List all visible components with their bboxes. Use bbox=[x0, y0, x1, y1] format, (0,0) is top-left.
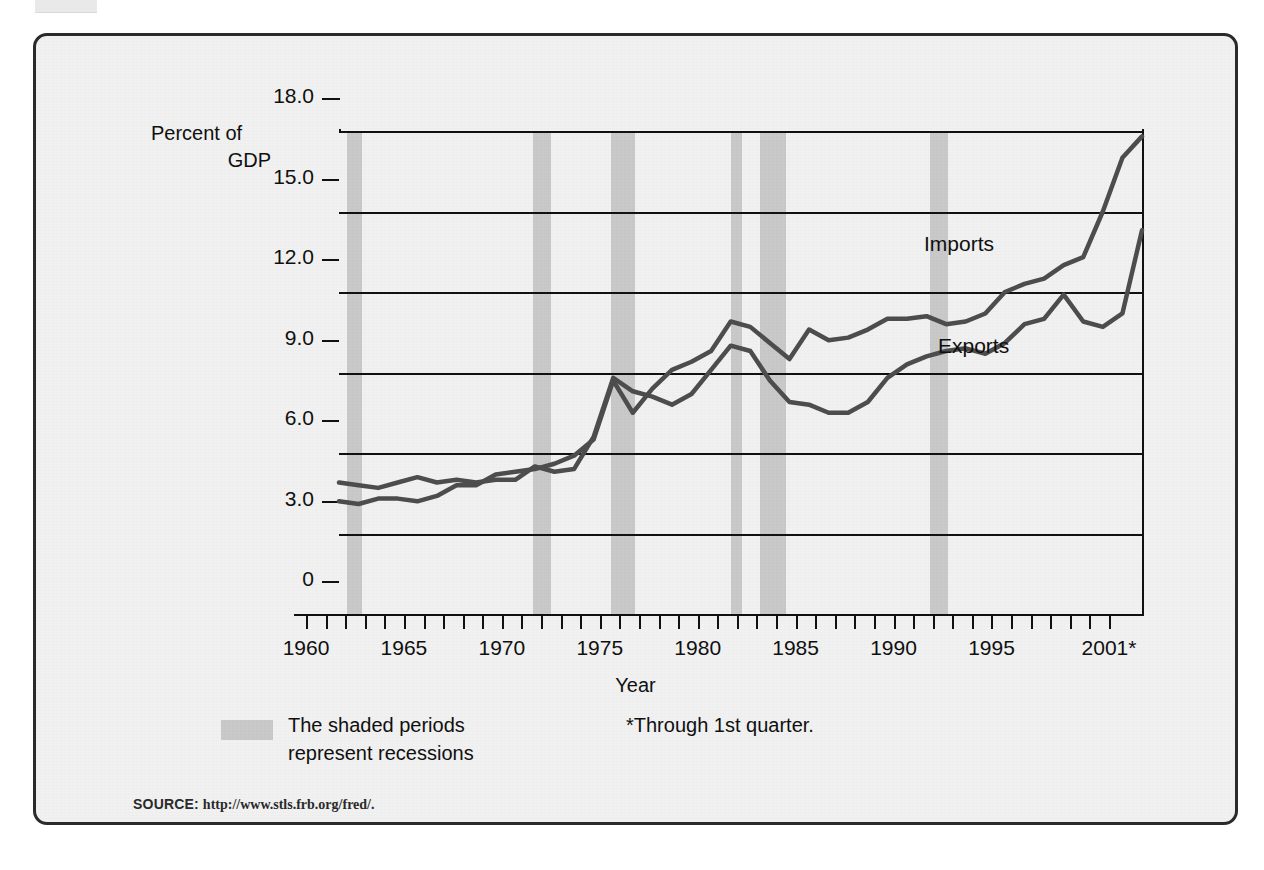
x-tick-mark-1989 bbox=[874, 614, 876, 629]
x-tick-label-1970: 1970 bbox=[478, 636, 525, 660]
x-tick-mark-1978 bbox=[659, 614, 661, 629]
x-tick-mark-1997 bbox=[1031, 614, 1033, 629]
y-axis-title-line1: Percent of bbox=[151, 122, 242, 144]
y-tick-mark-15.0 bbox=[322, 179, 340, 181]
plot-right-border bbox=[1142, 129, 1144, 616]
x-tick-mark-1969 bbox=[482, 614, 484, 629]
x-tick-mark-1963 bbox=[365, 614, 367, 629]
x-tick-mark-1962 bbox=[345, 614, 347, 629]
x-tick-mark-1965 bbox=[404, 614, 406, 629]
x-tick-label-1990: 1990 bbox=[870, 636, 917, 660]
x-tick-mark-1960 bbox=[306, 614, 308, 629]
x-tick-mark-1970 bbox=[502, 614, 504, 629]
y-tick-mark-12.0 bbox=[322, 259, 340, 261]
x-tick-mark-1973 bbox=[561, 614, 563, 629]
series-label-exports: Exports bbox=[938, 334, 1009, 358]
x-tick-mark-1990 bbox=[894, 614, 896, 629]
y-tick-text: 3.0 bbox=[285, 487, 314, 511]
y-tick-mark-6.0 bbox=[322, 420, 340, 422]
x-tick-mark-1988 bbox=[854, 614, 856, 629]
y-tick-text: 18.0 bbox=[273, 84, 314, 108]
y-axis-title-line2: GDP bbox=[151, 147, 271, 174]
legend-recession-text: The shaded periods represent recessions bbox=[288, 711, 474, 767]
line-exports bbox=[339, 230, 1142, 488]
series-label-imports: Imports bbox=[924, 232, 994, 256]
y-tick-mark-18.0 bbox=[322, 98, 340, 100]
x-tick-mark-1964 bbox=[384, 614, 386, 629]
y-tick-text: 6.0 bbox=[285, 406, 314, 430]
legend-recession-swatch bbox=[221, 720, 273, 740]
x-tick-mark-1966 bbox=[424, 614, 426, 629]
x-tick-label-1985: 1985 bbox=[772, 636, 819, 660]
x-tick-mark-1986 bbox=[815, 614, 817, 629]
source-label: SOURCE: bbox=[133, 796, 199, 812]
figure-root: Percent of GDP 03.06.09.012.015.018.0 19… bbox=[0, 0, 1264, 870]
x-tick-mark-1983 bbox=[756, 614, 758, 629]
series-lines bbox=[339, 131, 1142, 614]
x-tick-mark-1976 bbox=[619, 614, 621, 629]
x-tick-label-1960: 1960 bbox=[283, 636, 330, 660]
x-tick-label-1975: 1975 bbox=[576, 636, 623, 660]
line-imports bbox=[339, 136, 1142, 504]
x-tick-mark-1979 bbox=[678, 614, 680, 629]
y-tick-mark-9.0 bbox=[322, 340, 340, 342]
x-tick-mark-1982 bbox=[737, 614, 739, 629]
legend-line-1: The shaded periods bbox=[288, 711, 474, 739]
x-tick-mark-1994 bbox=[972, 614, 974, 629]
x-tick-mark-1980 bbox=[698, 614, 700, 629]
x-tick-mark-1971 bbox=[521, 614, 523, 629]
x-tick-mark-1977 bbox=[639, 614, 641, 629]
y-axis-title: Percent of GDP bbox=[151, 120, 271, 174]
y-tick-text: 12.0 bbox=[273, 245, 314, 269]
x-tick-label-1980: 1980 bbox=[674, 636, 721, 660]
x-tick-mark-1987 bbox=[835, 614, 837, 629]
y-tick-text: 15.0 bbox=[273, 165, 314, 189]
x-tick-mark-2000 bbox=[1089, 614, 1091, 629]
x-tick-mark-1985 bbox=[796, 614, 798, 629]
x-tick-label-1965: 1965 bbox=[381, 636, 428, 660]
figure-frame: Percent of GDP 03.06.09.012.015.018.0 19… bbox=[33, 33, 1238, 825]
x-tick-mark-1972 bbox=[541, 614, 543, 629]
x-tick-mark-1993 bbox=[952, 614, 954, 629]
x-tick-mark-1984 bbox=[776, 614, 778, 629]
x-tick-mark-1991 bbox=[913, 614, 915, 629]
x-tick-mark-1998 bbox=[1050, 614, 1052, 629]
x-tick-mark-1992 bbox=[933, 614, 935, 629]
x-tick-mark-1999 bbox=[1070, 614, 1072, 629]
y-tick-text: 0 bbox=[302, 567, 314, 591]
x-tick-mark-1974 bbox=[580, 614, 582, 629]
x-tick-mark-1995 bbox=[991, 614, 993, 629]
x-tick-mark-1968 bbox=[463, 614, 465, 629]
footnote-through-quarter: *Through 1st quarter. bbox=[626, 714, 814, 737]
x-tick-label-1995: 1995 bbox=[968, 636, 1015, 660]
legend-line-2: represent recessions bbox=[288, 739, 474, 767]
source-url: http://www.stls.frb.org/fred/. bbox=[203, 797, 375, 812]
x-tick-mark-1975 bbox=[600, 614, 602, 629]
page-artifact bbox=[35, 0, 97, 13]
x-tick-mark-1961 bbox=[326, 614, 328, 629]
y-tick-mark-0 bbox=[322, 581, 340, 583]
y-tick-text: 9.0 bbox=[285, 326, 314, 350]
x-axis-title: Year bbox=[36, 674, 1235, 697]
x-tick-mark-1996 bbox=[1011, 614, 1013, 629]
source-note: SOURCE: http://www.stls.frb.org/fred/. bbox=[133, 796, 374, 813]
x-tick-mark-1981 bbox=[717, 614, 719, 629]
x-tick-mark-1967 bbox=[443, 614, 445, 629]
x-tick-label-2001*: 2001* bbox=[1082, 636, 1137, 660]
x-tick-mark-2001 bbox=[1109, 614, 1111, 629]
plot-area bbox=[339, 131, 1142, 614]
